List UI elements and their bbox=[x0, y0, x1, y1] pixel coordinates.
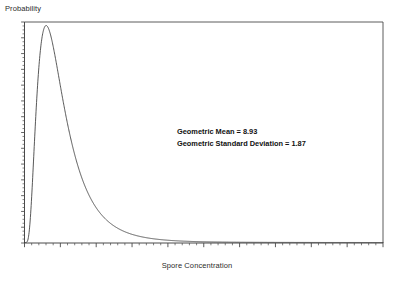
x-axis-label: Spore Concentration bbox=[0, 261, 394, 270]
y-axis-label: Probability bbox=[5, 4, 41, 13]
statistics-annotation: Geometric Mean = 8.93 Geometric Standard… bbox=[177, 126, 306, 149]
geometric-standard-deviation-text: Geometric Standard Deviation = 1.87 bbox=[177, 138, 306, 150]
geometric-mean-text: Geometric Mean = 8.93 bbox=[177, 126, 306, 138]
lognormal-distribution-figure: Probability Spore Concentration Geometri… bbox=[0, 0, 394, 282]
y-axis-ticks bbox=[21, 22, 24, 243]
x-axis-ticks bbox=[25, 243, 384, 247]
